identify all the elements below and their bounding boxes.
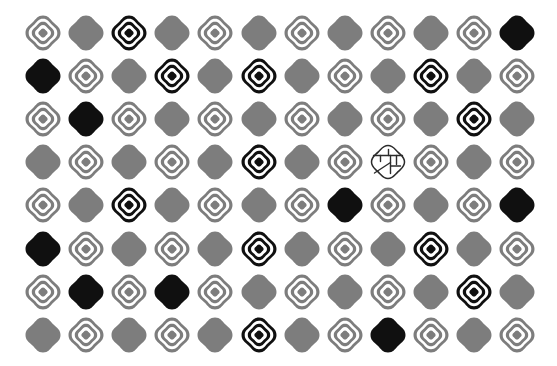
shape-black-ring-r1-c3[interactable]: [107, 11, 151, 55]
shape-black-solid-r1-c12[interactable]: [495, 11, 539, 55]
shape-black-ring-r6-c6[interactable]: [237, 227, 281, 271]
shape-gray-ring-r1-c7[interactable]: [280, 11, 324, 55]
shape-black-solid-r7-c2[interactable]: [64, 270, 108, 314]
shape-gray-solid-r8-c11[interactable]: [452, 313, 496, 357]
shape-gray-ring-r3-c5[interactable]: [193, 97, 237, 141]
shape-gray-solid-r8-c1[interactable]: [21, 313, 65, 357]
shape-gray-solid-r4-c7[interactable]: [280, 140, 324, 184]
shape-gray-ring-r4-c12[interactable]: [495, 140, 539, 184]
shape-gray-solid-r6-c5[interactable]: [193, 227, 237, 271]
shape-gray-ring-r8-c4[interactable]: [150, 313, 194, 357]
shape-gray-solid-r6-c9[interactable]: [366, 227, 410, 271]
shape-black-ring-r6-c10[interactable]: [409, 227, 453, 271]
shape-gray-ring-r5-c5[interactable]: [193, 183, 237, 227]
shape-gray-ring-r3-c1[interactable]: [21, 97, 65, 141]
shape-gray-ring-r8-c10[interactable]: [409, 313, 453, 357]
shape-gray-solid-r8-c7[interactable]: [280, 313, 324, 357]
shape-gray-ring-r3-c7[interactable]: [280, 97, 324, 141]
shape-gray-ring-r8-c2[interactable]: [64, 313, 108, 357]
shape-gray-solid-r6-c11[interactable]: [452, 227, 496, 271]
shape-gray-ring-r1-c1[interactable]: [21, 11, 65, 55]
shape-gray-solid-r8-c3[interactable]: [107, 313, 151, 357]
shape-gray-solid-r5-c2[interactable]: [64, 183, 108, 227]
shape-gray-ring-r5-c9[interactable]: [366, 183, 410, 227]
shape-black-solid-r7-c4[interactable]: [150, 270, 194, 314]
shape-black-ring-r8-c6[interactable]: [237, 313, 281, 357]
shape-gray-ring-r4-c2[interactable]: [64, 140, 108, 184]
shape-gray-solid-r5-c6[interactable]: [237, 183, 281, 227]
shape-gray-solid-r1-c4[interactable]: [150, 11, 194, 55]
shape-gray-ring-r6-c8[interactable]: [323, 227, 367, 271]
shape-gray-solid-r1-c2[interactable]: [64, 11, 108, 55]
shape-gray-ring-r1-c9[interactable]: [366, 11, 410, 55]
shape-gray-solid-r2-c7[interactable]: [280, 54, 324, 98]
shape-gray-ring-r8-c12[interactable]: [495, 313, 539, 357]
shape-gray-ring-r4-c10[interactable]: [409, 140, 453, 184]
shape-gray-solid-r1-c10[interactable]: [409, 11, 453, 55]
shape-black-ring-r5-c3[interactable]: [107, 183, 151, 227]
shape-gray-solid-r2-c11[interactable]: [452, 54, 496, 98]
shape-gray-ring-r7-c5[interactable]: [193, 270, 237, 314]
shape-gray-ring-r2-c8[interactable]: [323, 54, 367, 98]
stimulus-grid: [0, 0, 557, 366]
shape-gray-ring-r6-c4[interactable]: [150, 227, 194, 271]
shape-gray-solid-r7-c10[interactable]: [409, 270, 453, 314]
shape-gray-solid-r5-c10[interactable]: [409, 183, 453, 227]
shape-gray-solid-r3-c12[interactable]: [495, 97, 539, 141]
shape-gray-ring-r4-c4[interactable]: [150, 140, 194, 184]
shape-gray-ring-r3-c3[interactable]: [107, 97, 151, 141]
shape-gray-ring-r1-c5[interactable]: [193, 11, 237, 55]
shape-gray-ring-r6-c12[interactable]: [495, 227, 539, 271]
shape-black-ring-r2-c6[interactable]: [237, 54, 281, 98]
shape-gray-solid-r3-c10[interactable]: [409, 97, 453, 141]
shape-gray-solid-r3-c4[interactable]: [150, 97, 194, 141]
shape-gray-solid-r8-c5[interactable]: [193, 313, 237, 357]
shape-gray-ring-r7-c7[interactable]: [280, 270, 324, 314]
shape-gray-solid-r4-c1[interactable]: [21, 140, 65, 184]
shape-black-solid-r5-c8[interactable]: [323, 183, 367, 227]
shape-gray-ring-r7-c3[interactable]: [107, 270, 151, 314]
shape-gray-ring-r5-c11[interactable]: [452, 183, 496, 227]
shape-black-ring-r2-c10[interactable]: [409, 54, 453, 98]
shape-gray-solid-r2-c9[interactable]: [366, 54, 410, 98]
shape-gray-ring-r7-c9[interactable]: [366, 270, 410, 314]
shape-gray-solid-r4-c3[interactable]: [107, 140, 151, 184]
shape-gray-ring-r6-c2[interactable]: [64, 227, 108, 271]
shape-black-solid-r3-c2[interactable]: [64, 97, 108, 141]
shape-gray-solid-r7-c12[interactable]: [495, 270, 539, 314]
shape-gray-solid-r4-c5[interactable]: [193, 140, 237, 184]
shape-black-ring-r4-c6[interactable]: [237, 140, 281, 184]
shape-gray-solid-r3-c8[interactable]: [323, 97, 367, 141]
shape-gray-ring-r5-c1[interactable]: [21, 183, 65, 227]
shape-gray-ring-r3-c9[interactable]: [366, 97, 410, 141]
shape-black-solid-r8-c9[interactable]: [366, 313, 410, 357]
shape-gray-solid-r5-c4[interactable]: [150, 183, 194, 227]
shape-outline-sketch-r4-c9[interactable]: [366, 140, 410, 184]
shape-gray-solid-r1-c8[interactable]: [323, 11, 367, 55]
shape-gray-ring-r2-c12[interactable]: [495, 54, 539, 98]
shape-gray-ring-r1-c11[interactable]: [452, 11, 496, 55]
shape-gray-ring-r5-c7[interactable]: [280, 183, 324, 227]
shape-gray-solid-r4-c11[interactable]: [452, 140, 496, 184]
shape-gray-ring-r7-c1[interactable]: [21, 270, 65, 314]
shape-black-ring-r3-c11[interactable]: [452, 97, 496, 141]
shape-gray-solid-r1-c6[interactable]: [237, 11, 281, 55]
shape-gray-solid-r6-c3[interactable]: [107, 227, 151, 271]
shape-black-solid-r6-c1[interactable]: [21, 227, 65, 271]
shape-gray-ring-r4-c8[interactable]: [323, 140, 367, 184]
shape-gray-solid-r7-c6[interactable]: [237, 270, 281, 314]
shape-gray-ring-r8-c8[interactable]: [323, 313, 367, 357]
shape-gray-solid-r2-c3[interactable]: [107, 54, 151, 98]
shape-black-solid-r2-c1[interactable]: [21, 54, 65, 98]
shape-black-solid-r5-c12[interactable]: [495, 183, 539, 227]
shape-gray-solid-r7-c8[interactable]: [323, 270, 367, 314]
shape-black-ring-r7-c11[interactable]: [452, 270, 496, 314]
shape-gray-ring-r2-c2[interactable]: [64, 54, 108, 98]
shape-gray-solid-r2-c5[interactable]: [193, 54, 237, 98]
shape-black-ring-r2-c4[interactable]: [150, 54, 194, 98]
shape-gray-solid-r3-c6[interactable]: [237, 97, 281, 141]
shape-gray-solid-r6-c7[interactable]: [280, 227, 324, 271]
